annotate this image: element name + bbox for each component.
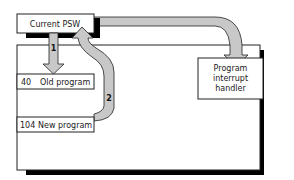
new-program-label: New program [38, 121, 92, 130]
old-program-address: 40 [21, 78, 31, 87]
arrow-2-label: 2 [106, 94, 112, 103]
psw-interrupt-diagram: Current PSW 1 2 40 Old program 104 New p… [0, 0, 294, 180]
handler-line-3: handler [215, 84, 246, 93]
current-psw-label: Current PSW [30, 20, 80, 29]
old-program-label: Old program [40, 78, 90, 87]
new-program-address: 104 [20, 121, 35, 130]
handler-line-1: Program [214, 64, 248, 73]
handler-line-2: interrupt [213, 74, 248, 83]
arrow-1-label: 1 [51, 44, 57, 53]
